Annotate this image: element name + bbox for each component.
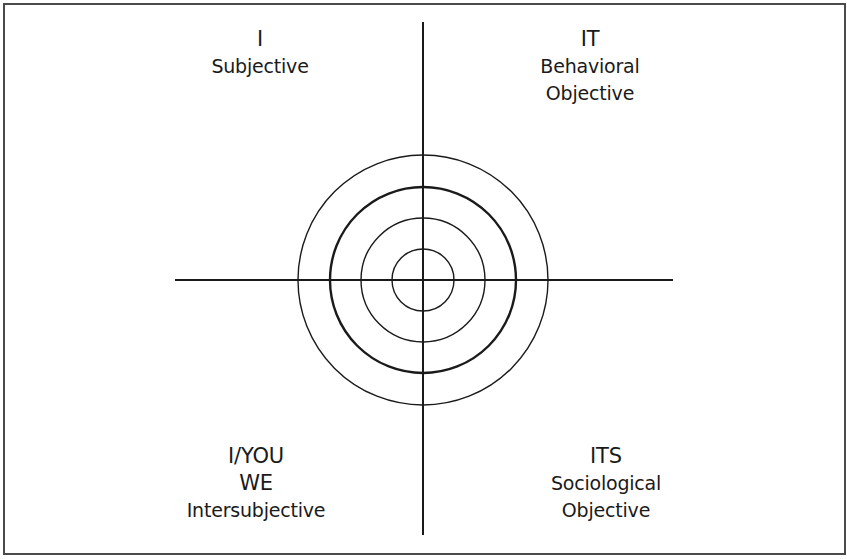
quadrant-upper-right-line-1: Behavioral [480, 53, 700, 80]
quadrant-lower-left-line-1: WE [146, 470, 366, 497]
quadrant-lower-left-label: I/YOU WE Intersubjective [146, 442, 366, 524]
quadrant-upper-right-label: IT Behavioral Objective [480, 25, 700, 107]
quadrant-lower-right-line-1: Sociological [496, 470, 716, 497]
quadrant-upper-left-line-1: Subjective [150, 53, 370, 80]
quadrant-upper-right-line-2: Objective [480, 80, 700, 107]
quadrant-lower-left-head: I/YOU [146, 442, 366, 470]
quadrant-upper-left-head: I [150, 25, 370, 53]
quadrant-lower-right-line-2: Objective [496, 497, 716, 524]
quadrant-lower-right-label: ITS Sociological Objective [496, 442, 716, 524]
quadrant-lower-right-head: ITS [496, 442, 716, 470]
quadrant-lower-left-line-2: Intersubjective [146, 497, 366, 524]
four-quadrant-diagram [0, 0, 847, 559]
quadrant-upper-left-label: I Subjective [150, 25, 370, 80]
quadrant-upper-right-head: IT [480, 25, 700, 53]
